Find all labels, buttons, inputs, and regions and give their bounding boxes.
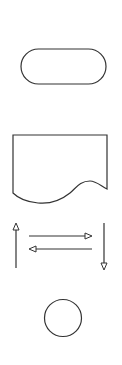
terminator-symbol — [21, 49, 106, 84]
flowchart-symbols-canvas — [0, 0, 122, 365]
connector-symbol — [45, 300, 82, 337]
flow-lines-symbol — [13, 223, 107, 270]
document-symbol — [13, 135, 107, 203]
arrow-down-icon — [101, 223, 107, 270]
arrow-up-icon — [13, 223, 19, 268]
arrow-right-icon — [29, 233, 92, 239]
arrow-left-icon — [29, 246, 92, 252]
